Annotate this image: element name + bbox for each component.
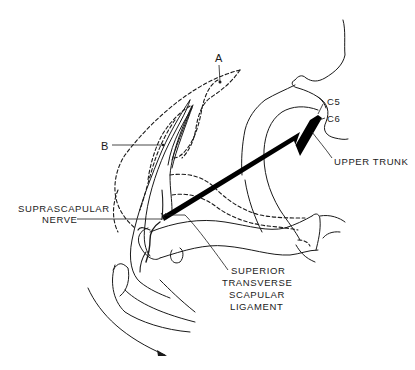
scapula-spine-outer [130,100,190,298]
suprascapular-nerve-vertical [162,190,163,218]
leader-a [219,65,220,82]
jaw-outline [292,20,345,108]
suprascapular-nerve-path [162,115,322,221]
marker-a [219,81,222,84]
label-c6: C6 [327,113,340,124]
leader-ligament [162,215,228,270]
label-a: A [215,52,223,64]
diagram-canvas: A B C5 C6 UPPER TRUNK SUPRASCAPULAR NERV… [0,0,415,370]
scapula-body-arc1-dashed [170,174,305,218]
label-b: B [101,140,108,152]
first-rib-inner [245,180,262,232]
label-ligament-line2: TRANSVERSE [222,277,292,288]
label-ligament-line1: SUPERIOR [231,265,285,276]
leader-c5 [318,104,323,114]
clavicle-medial-end [312,214,320,250]
label-upper-trunk: UPPER TRUNK [334,156,409,167]
acromion-outline [172,105,193,168]
sternum-inner [323,232,340,238]
label-ligament-line4: LIGAMENT [230,301,283,312]
marker-b [162,144,165,147]
label-c5: C5 [327,96,340,107]
rotation-arrow-curve [88,288,165,355]
label-suprascapular-line1: SUPRASCAPULAR [18,203,110,214]
humerus-inner-line [125,290,195,322]
suprascapular-nerve-branch3 [140,252,146,272]
label-ligament-line3: SCAPULAR [229,289,285,300]
scapula-outline-a-top-dashed [182,70,240,158]
coracoid-knob [170,248,183,263]
clavicle-upper [150,216,312,232]
clavicle-lower [160,246,318,258]
label-suprascapular-line2: NERVE [42,214,78,225]
scapula-outline-a-inner-dashed [173,80,218,158]
sternum-outline [320,215,345,222]
scapula-body-left-dashed [114,190,119,232]
shoulder-anatomy-diagram: A B C5 C6 UPPER TRUNK SUPRASCAPULAR NERV… [0,0,415,370]
humerus-outline [112,265,190,332]
rotation-arrowhead [157,350,167,356]
acromion-tip [172,106,192,160]
scapula-body-arc3-dashed [298,240,310,246]
